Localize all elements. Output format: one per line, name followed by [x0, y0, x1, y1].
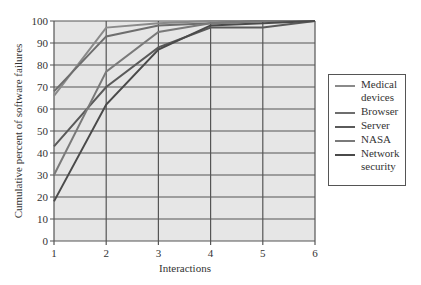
y-axis-title: Cumulative percent of software failures: [12, 44, 24, 219]
x-tick-label: 4: [208, 247, 214, 259]
y-tick-label: 70: [37, 81, 49, 93]
legend-item-nasa: NASA: [335, 133, 405, 146]
legend-item-browser: Browser: [335, 105, 405, 118]
y-tick-label: 100: [32, 15, 49, 27]
x-axis-title: Interactions: [159, 262, 211, 274]
y-tick-label: 30: [37, 169, 49, 181]
x-tick-label: 2: [103, 247, 109, 259]
x-tick-label: 5: [260, 247, 266, 259]
legend-item-network-security: Network security: [335, 147, 405, 173]
y-tick-label: 60: [37, 103, 49, 115]
y-tick-label: 10: [37, 213, 49, 225]
y-tick-label: 0: [43, 235, 49, 247]
x-axis-ticks: 123456: [51, 247, 318, 259]
x-tick-label: 3: [156, 247, 162, 259]
legend-label: Network security: [361, 147, 405, 173]
legend-item-server: Server: [335, 119, 405, 132]
legend-swatch: [335, 140, 355, 142]
legend-swatch: [335, 112, 355, 114]
legend-label: Browser: [361, 105, 405, 118]
legend-label: Medical devices: [361, 78, 405, 104]
y-axis-ticks: 0102030405060708090100: [32, 15, 49, 247]
y-tick-label: 50: [37, 125, 49, 137]
legend-label: Server: [361, 119, 405, 132]
x-tick-label: 1: [51, 247, 57, 259]
x-tick-label: 6: [312, 247, 318, 259]
y-tick-label: 20: [37, 191, 49, 203]
legend: Medical devices Browser Server NASA Netw…: [328, 74, 406, 186]
y-tick-label: 90: [37, 37, 49, 49]
y-tick-label: 40: [37, 147, 49, 159]
legend-item-medical-devices: Medical devices: [335, 78, 405, 104]
legend-swatch: [335, 154, 355, 156]
y-tick-label: 80: [37, 59, 49, 71]
legend-label: NASA: [361, 133, 405, 146]
legend-swatch: [335, 126, 355, 128]
legend-swatch: [335, 85, 355, 87]
